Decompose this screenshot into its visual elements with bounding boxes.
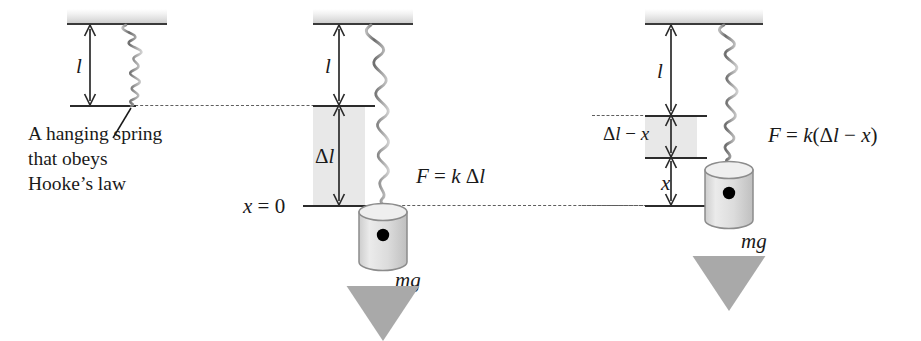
label-force-equilibrium: F = k Δl — [416, 163, 485, 190]
label-force-displaced: F = k(Δl − x) — [768, 122, 878, 149]
hanging-mass-equilibrium — [359, 204, 407, 271]
label-delta-l: Δl — [315, 143, 334, 170]
label-delta-l-minus-x: Δl − x — [603, 122, 649, 146]
panel3-natural-length-tick — [645, 115, 707, 117]
label-mg-displaced: mg — [741, 228, 767, 255]
spring-displaced — [719, 18, 737, 166]
label-l-panel1: l — [76, 53, 82, 80]
panel2-equilibrium-tick — [303, 205, 375, 207]
panel3-equilibrium-tick — [645, 205, 707, 207]
spring-relaxed — [123, 20, 142, 106]
label-l-panel3: l — [657, 58, 663, 85]
panel2-natural-length-tick — [313, 105, 375, 107]
panel3-lower-dashed-stub — [582, 205, 648, 206]
label-x-equals-zero: x = 0 — [243, 193, 285, 220]
panel3-upper-dashed-stub — [592, 115, 648, 116]
dimension-arrow-l-panel2 — [334, 25, 345, 105]
label-mg-equilibrium: mg — [395, 267, 421, 294]
caption-line-1: A hanging spring — [28, 122, 162, 147]
center-of-mass-dot — [377, 229, 389, 241]
panel1-natural-length-tick — [70, 105, 136, 107]
label-x-displacement: x — [661, 170, 670, 197]
hooke-law-figure: l A hanging spring that obeys Hooke’s la… — [0, 0, 921, 341]
dimension-arrow-l-panel1 — [85, 25, 96, 105]
panel3-extension-tick — [645, 157, 707, 159]
label-l-panel2: l — [325, 53, 331, 80]
caption-line-3: Hooke’s law — [28, 172, 126, 197]
ceiling-support-middle — [313, 9, 413, 25]
center-of-mass-dot — [723, 187, 735, 199]
spring-equilibrium — [366, 18, 388, 207]
caption-line-2: that obeys — [28, 147, 108, 172]
hanging-mass-displaced — [705, 162, 753, 229]
ceiling-support-right — [645, 9, 763, 25]
dimension-arrow-l-panel3 — [666, 25, 677, 115]
ceiling-support-left — [67, 9, 167, 25]
delta-l-minus-x-shaded-band — [645, 115, 697, 157]
